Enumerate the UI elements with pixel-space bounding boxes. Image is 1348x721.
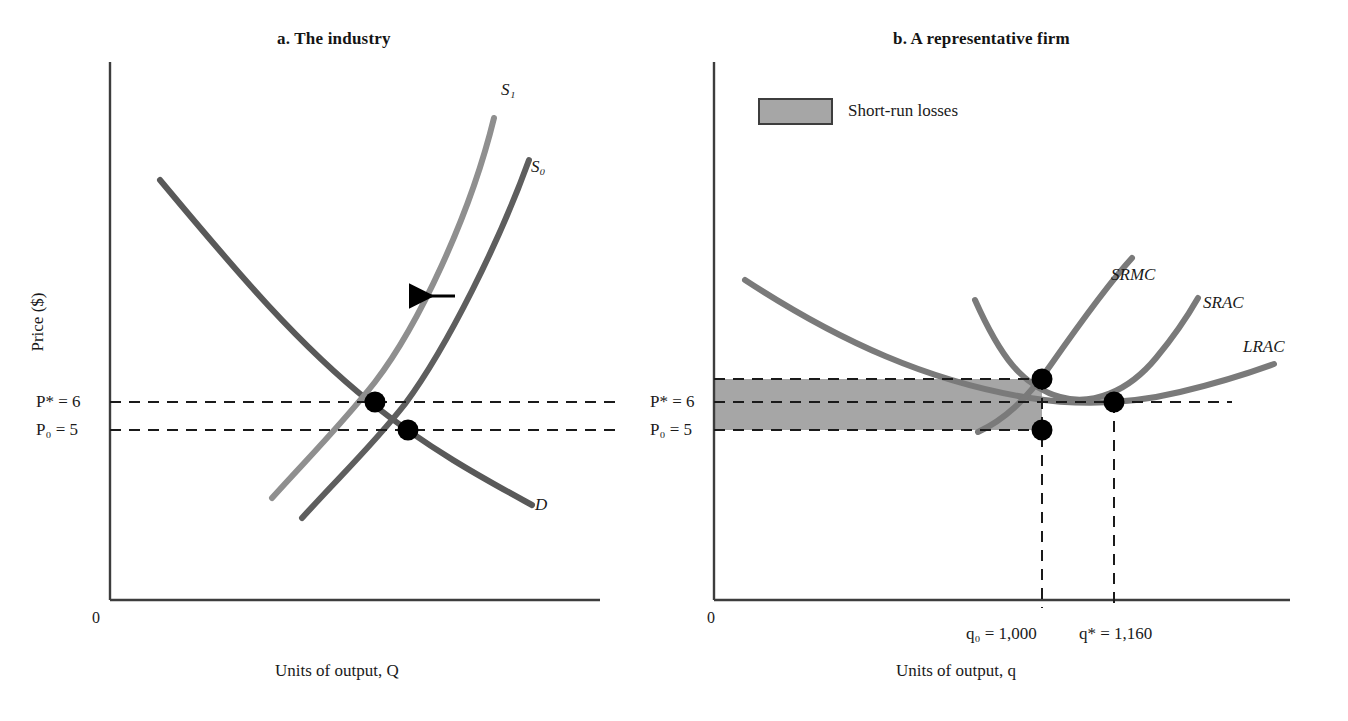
figure-canvas [0, 0, 1348, 721]
equilibrium-marker-initial [398, 420, 419, 441]
equilibrium-marker-new [365, 392, 386, 413]
srac-curve-label: SRAC [1203, 294, 1244, 311]
short-run-losses-legend-label: Short-run losses [848, 101, 958, 121]
panel-a-origin-label: 0 [92, 609, 100, 627]
panel-b-origin-label: 0 [707, 609, 715, 627]
panel-b-price-star-label: P* = 6 [650, 392, 695, 412]
panel-b-x-axis-label: Units of output, q [896, 661, 1016, 681]
supply-curve-s0 [302, 160, 529, 518]
panel-b-q0-label: q₀ = 1,000 [966, 624, 1037, 644]
supply-curve-s0-label: S₀ [531, 157, 545, 177]
panel-a-x-axis-label: Units of output, Q [275, 661, 399, 681]
panel-a-y-axis-label: Price ($) [28, 262, 48, 382]
panel-b-price-zero-label: P₀ = 5 [650, 420, 692, 440]
panel-a-plot [110, 62, 616, 600]
demand-curve [160, 180, 532, 505]
panel-b-plot [714, 62, 1290, 608]
marker-srac-at-q0 [1032, 369, 1053, 390]
panel-a-price-zero-label: P₀ = 5 [36, 420, 78, 440]
demand-curve-label: D [535, 495, 547, 515]
panel-a-price-star-label: P* = 6 [36, 392, 81, 412]
short-run-losses-swatch [758, 98, 833, 125]
marker-srmc-at-q0 [1032, 420, 1053, 441]
lrac-curve-label: LRAC [1243, 337, 1285, 357]
supply-curve-s1-label: S₁ [501, 80, 515, 100]
srmc-curve-label: SRMC [1111, 265, 1155, 285]
panel-b-qstar-label: q* = 1,160 [1079, 624, 1152, 644]
figure-root: a. The industry b. A representative firm [0, 0, 1348, 721]
marker-lrac-minimum [1104, 392, 1125, 413]
